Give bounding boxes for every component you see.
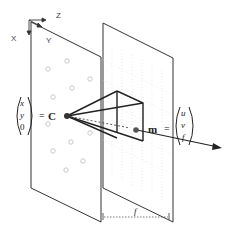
x-axis-label: X xyxy=(11,34,17,43)
svg-text:x: x xyxy=(19,98,24,108)
svg-text:v: v xyxy=(181,120,185,130)
svg-text:u: u xyxy=(181,108,186,118)
equals-sign-m: = xyxy=(164,123,170,134)
y-axis-label: Y xyxy=(46,36,52,45)
image-point-label: m xyxy=(148,123,157,135)
pinhole-camera-diagram: Z X Y x y 0 = C m = u v f xyxy=(0,0,231,236)
arrow-head-icon xyxy=(212,143,222,150)
z-axis-label: Z xyxy=(56,11,61,20)
image-plane xyxy=(103,23,173,222)
focal-length-label: f xyxy=(134,206,138,216)
camera-center-label: C xyxy=(48,110,56,122)
world-plane xyxy=(31,22,101,222)
image-point-dot xyxy=(133,127,139,133)
equals-sign: = xyxy=(39,110,45,121)
world-vector-label: x y 0 xyxy=(17,97,32,135)
svg-text:y: y xyxy=(19,110,24,120)
camera-center-dot xyxy=(64,113,70,119)
svg-text:0: 0 xyxy=(20,122,25,132)
